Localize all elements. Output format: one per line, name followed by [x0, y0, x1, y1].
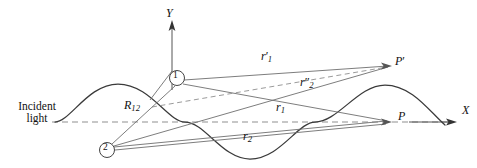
r1-label: r1	[276, 101, 285, 115]
r1-prime-label: r′1	[261, 50, 272, 64]
point-P-prime-mark: ′	[402, 54, 404, 68]
separation-R12-label: R12	[124, 99, 140, 113]
r2-double-prime-label: r″2	[300, 76, 313, 90]
ray-node1-extension-down-left	[150, 71, 172, 100]
point-P-prime-label: P′	[395, 55, 404, 68]
r2-label: r2	[243, 130, 252, 144]
ray-node2-to-node1	[112, 86, 175, 144]
ray-node1-to-P	[183, 84, 387, 121]
r1-subscript: 1	[281, 105, 285, 115]
r2-subscript: 2	[248, 134, 252, 144]
scattering-center-2-label: 2	[103, 143, 108, 153]
incident-light-line2: light	[26, 112, 47, 124]
y-axis-label: Y	[166, 7, 173, 20]
scattering-diagram	[0, 0, 477, 168]
x-axis-label: X	[462, 104, 469, 117]
point-P-label: P	[398, 110, 405, 123]
incident-light-label: Incident light	[6, 100, 68, 124]
separation-subscript: 12	[131, 103, 140, 113]
r2-double-prime-subscript: 2	[309, 80, 313, 90]
incident-light-line1: Incident	[18, 100, 56, 112]
r1-prime-subscript: 1	[268, 54, 272, 64]
scattering-center-1-label: 1	[173, 71, 178, 81]
ray-node1-to-P-prime	[184, 66, 388, 80]
